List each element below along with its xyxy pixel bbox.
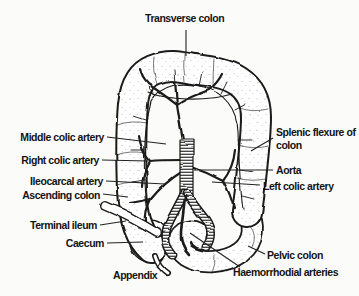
label-terminal-ileum: Terminal ileum — [30, 219, 97, 232]
anatomy-drawing — [105, 53, 268, 273]
anatomy-diagram-figure: Transverse colon Middle colic artery Rig… — [0, 0, 359, 296]
label-ileocarcal-artery: Ileocarcal artery — [30, 175, 103, 188]
label-ascending-colon: Ascending colon — [22, 189, 100, 202]
label-pelvic-colon: Pelvic colon — [267, 249, 323, 262]
label-aorta: Aorta — [276, 164, 301, 177]
label-right-colic-artery: Right colic artery — [21, 154, 99, 167]
label-caecum: Caecum — [66, 237, 104, 250]
label-transverse-colon: Transverse colon — [145, 12, 224, 25]
label-appendix: Appendix — [113, 269, 157, 282]
aorta-shape — [180, 140, 193, 195]
label-splenic-flexure-of-colon: Splenic flexure of colon — [276, 126, 358, 151]
label-left-colic-artery: Left colic artery — [263, 180, 334, 193]
label-middle-colic-artery: Middle colic artery — [20, 131, 104, 144]
label-haemorrhodial-arteries: Haemorrhodial arteries — [233, 266, 338, 279]
